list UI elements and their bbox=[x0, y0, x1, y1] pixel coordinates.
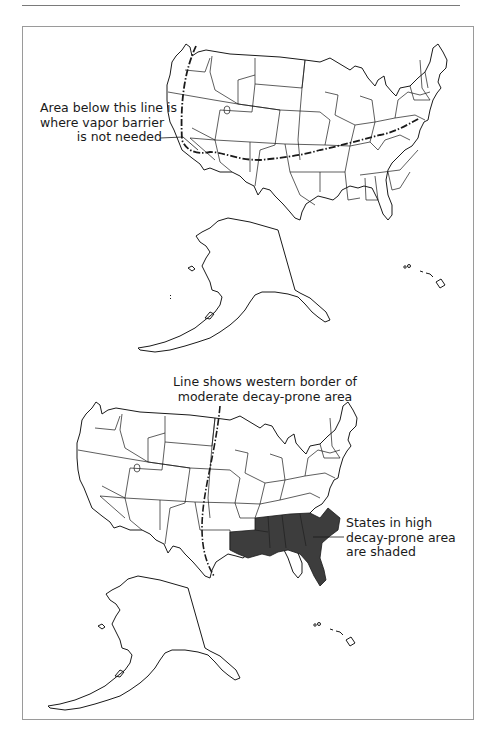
top-us-map bbox=[138, 44, 447, 352]
moderate-callout-line-1: Line shows western border of bbox=[150, 375, 380, 390]
shaded-callout-line-1: States in high bbox=[346, 516, 471, 531]
top-callout-line-3: is not needed bbox=[40, 130, 162, 145]
moderate-callout-line-2: moderate decay-prone area bbox=[150, 390, 380, 405]
top-callout-label: Area below this line is where vapor barr… bbox=[40, 101, 162, 145]
top-callout-line-1: Area below this line is bbox=[40, 101, 162, 116]
bottom-us-map bbox=[48, 402, 357, 710]
shaded-states-callout-label: States in high decay-prone area are shad… bbox=[346, 516, 471, 560]
top-callout-line-2: where vapor barrier bbox=[40, 116, 162, 131]
moderate-decay-callout-label: Line shows western border of moderate de… bbox=[150, 375, 380, 404]
shaded-callout-line-3: are shaded bbox=[346, 545, 471, 560]
top-hawaii bbox=[404, 265, 445, 289]
bottom-hawaii bbox=[314, 623, 355, 647]
shaded-callout-line-2: decay-prone area bbox=[346, 531, 471, 546]
